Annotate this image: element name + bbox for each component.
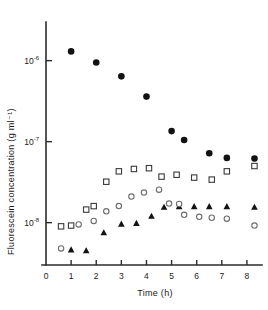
point-open-circle-4 (116, 203, 121, 208)
point-filled-circle-7 (224, 155, 231, 162)
point-open-circle-10 (181, 212, 186, 217)
x-axis-title-group: Time (h) (137, 288, 173, 298)
point-filled-triangle-1 (83, 247, 90, 253)
point-filled-circle-8 (251, 155, 258, 162)
x-tick-label-8: 8 (245, 271, 250, 281)
point-filled-triangle-5 (148, 213, 155, 219)
point-filled-circle-5 (181, 137, 188, 144)
point-filled-triangle-8 (191, 203, 198, 209)
y-tick-label--8: 10-8 (24, 217, 39, 228)
point-filled-circle-3 (143, 93, 150, 100)
point-open-square-4 (104, 179, 109, 184)
point-open-circle-7 (156, 187, 161, 192)
series-filled-triangle (68, 203, 258, 253)
x-axis-title: Time (h) (137, 288, 173, 298)
point-filled-circle-1 (93, 59, 100, 66)
point-open-circle-11 (197, 214, 202, 219)
point-open-square-1 (68, 223, 73, 228)
point-filled-triangle-0 (68, 246, 75, 252)
y-axis-title-group: Fluorescein concentration (g ml⁻¹) (6, 108, 16, 255)
y-tick-label--6: 10-6 (24, 55, 39, 66)
x-tick-label-4: 4 (144, 271, 149, 281)
series-open-circle (58, 187, 257, 251)
point-open-circle-1 (76, 222, 81, 227)
point-filled-circle-2 (118, 73, 125, 80)
point-open-square-12 (224, 169, 229, 174)
point-open-square-9 (174, 172, 179, 177)
point-open-circle-9 (176, 201, 181, 206)
x-tick-label-7: 7 (219, 271, 224, 281)
point-filled-triangle-10 (224, 203, 231, 209)
point-open-circle-12 (209, 215, 214, 220)
point-open-square-3 (91, 203, 96, 208)
x-tick-label-6: 6 (194, 271, 199, 281)
point-open-circle-2 (91, 218, 96, 223)
x-tick-label-0: 0 (44, 271, 49, 281)
series-filled-circle (68, 48, 258, 162)
x-tick-label-2: 2 (94, 271, 99, 281)
point-open-circle-6 (141, 190, 146, 195)
point-open-square-8 (159, 174, 164, 179)
point-open-square-0 (58, 224, 63, 229)
axes-layer (42, 22, 262, 265)
point-filled-triangle-3 (118, 220, 125, 226)
x-tick-label-1: 1 (69, 271, 74, 281)
point-open-circle-5 (129, 194, 134, 199)
x-tick-label-3: 3 (119, 271, 124, 281)
data-points-layer (58, 48, 257, 253)
point-filled-circle-0 (68, 48, 75, 55)
scatter-plot-svg: Fluorescein concentration (g ml⁻¹) 01234… (0, 0, 268, 310)
x-tick-label-5: 5 (169, 271, 174, 281)
point-filled-circle-4 (168, 128, 175, 135)
point-open-square-10 (191, 175, 196, 180)
point-filled-triangle-11 (251, 204, 258, 210)
point-open-square-6 (131, 166, 136, 171)
point-filled-triangle-2 (100, 229, 107, 235)
point-open-square-5 (116, 169, 121, 174)
point-open-circle-13 (224, 216, 229, 221)
point-open-circle-14 (252, 223, 257, 228)
point-filled-triangle-9 (206, 203, 213, 209)
point-filled-circle-6 (206, 150, 213, 157)
point-open-circle-8 (166, 201, 171, 206)
chart-container: Fluorescein concentration (g ml⁻¹) 01234… (0, 0, 268, 310)
point-open-square-2 (83, 207, 88, 212)
point-open-circle-3 (104, 209, 109, 214)
y-tick-label--7: 10-7 (24, 136, 39, 147)
point-open-square-13 (252, 163, 257, 168)
y-axis-title: Fluorescein concentration (g ml⁻¹) (6, 108, 16, 255)
point-filled-triangle-4 (133, 220, 140, 226)
point-open-circle-0 (58, 246, 63, 251)
point-open-square-7 (146, 166, 151, 171)
point-open-square-11 (209, 177, 214, 182)
